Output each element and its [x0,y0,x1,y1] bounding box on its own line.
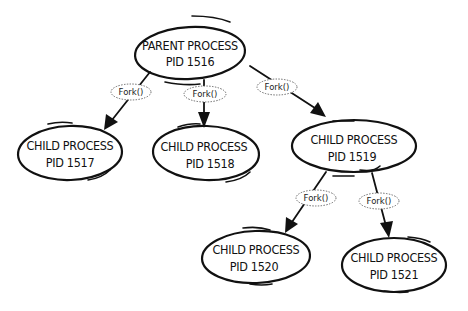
svg-text:CHILD PROCESS: CHILD PROCESS [27,138,114,153]
node-child-process-1517: CHILD PROCESS PID 1517 [17,122,123,182]
svg-text:Fork(): Fork() [119,87,144,97]
svg-text:CHILD PROCESS: CHILD PROCESS [213,242,300,257]
process-tree-diagram: Fork() Fork() Fork() Fork() Fork() PAREN… [0,0,468,311]
svg-text:PID 1521: PID 1521 [370,267,419,282]
svg-text:CHILD PROCESS: CHILD PROCESS [311,132,398,147]
svg-text:PID 1517: PID 1517 [46,155,95,170]
svg-text:PID 1516: PID 1516 [166,54,215,69]
edge-1516-to-1517 [104,72,150,130]
svg-text:Fork(): Fork() [265,82,290,92]
node-child-process-1519: CHILD PROCESS PID 1519 [292,120,416,176]
svg-text:Fork(): Fork() [367,196,392,206]
fork-label-1519: Fork() [257,79,297,95]
fork-label-1518: Fork() [184,86,226,102]
node-parent-process-1516: PARENT PROCESS PID 1516 [134,16,247,85]
fork-label-1520: Fork() [296,190,336,206]
svg-text:Fork(): Fork() [193,89,218,99]
node-child-process-1518: CHILD PROCESS PID 1518 [152,124,260,182]
svg-text:PID 1519: PID 1519 [328,149,377,164]
node-child-process-1521: CHILD PROCESS PID 1521 [342,237,446,292]
fork-label-1517: Fork() [111,84,151,100]
fork-label-1521: Fork() [359,193,399,209]
svg-text:PID 1520: PID 1520 [230,259,279,274]
svg-text:CHILD PROCESS: CHILD PROCESS [161,139,248,154]
svg-text:PID 1518: PID 1518 [186,156,235,171]
svg-text:PARENT PROCESS: PARENT PROCESS [142,38,238,53]
svg-text:CHILD PROCESS: CHILD PROCESS [351,250,438,265]
node-child-process-1520: CHILD PROCESS PID 1520 [201,227,311,285]
svg-text:Fork(): Fork() [304,193,329,203]
